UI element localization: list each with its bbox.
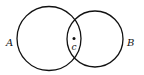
- venn-diagram: A B c: [0, 0, 144, 75]
- label-b: B: [126, 37, 134, 48]
- label-a: A: [5, 37, 13, 48]
- label-c: c: [72, 42, 77, 52]
- point-c: [73, 37, 76, 40]
- circle-a: [17, 7, 81, 71]
